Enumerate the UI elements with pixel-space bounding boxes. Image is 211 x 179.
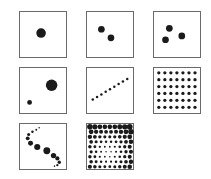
dot	[114, 130, 118, 134]
dot	[88, 155, 91, 158]
dot	[169, 99, 172, 102]
dot	[88, 145, 92, 149]
dots-canvas	[87, 68, 133, 113]
dot	[169, 78, 172, 81]
dot	[46, 79, 57, 90]
dot	[187, 85, 190, 88]
dot	[162, 36, 169, 43]
dot	[38, 127, 40, 129]
dot	[92, 98, 94, 100]
dots-canvas	[154, 12, 200, 57]
dot	[56, 164, 58, 166]
dot	[175, 106, 178, 109]
dot	[95, 160, 98, 163]
dot	[110, 141, 112, 143]
dot	[95, 150, 98, 153]
dot	[93, 155, 96, 158]
dot	[163, 85, 166, 88]
dot	[187, 92, 190, 95]
dot	[124, 150, 127, 153]
dot	[109, 130, 113, 134]
dot	[92, 124, 97, 129]
dot	[28, 141, 33, 146]
dot	[169, 92, 172, 95]
dot	[122, 80, 124, 82]
dot	[118, 165, 121, 168]
dot	[187, 99, 190, 102]
dot	[193, 92, 196, 95]
dot	[58, 161, 61, 164]
dot	[98, 26, 105, 33]
dot	[113, 135, 116, 138]
dot	[169, 85, 172, 88]
panel-one-dot: Single large dot	[19, 11, 67, 58]
dot	[112, 124, 117, 129]
dot	[193, 78, 196, 81]
dot	[114, 146, 116, 148]
dot	[103, 125, 108, 130]
dot	[110, 151, 112, 153]
dot	[90, 150, 93, 153]
dot	[115, 140, 118, 143]
dot	[157, 99, 160, 102]
dot	[93, 165, 97, 169]
dot	[187, 71, 190, 74]
dot	[109, 156, 111, 158]
dot	[118, 155, 121, 158]
dots-canvas	[20, 12, 66, 57]
dot	[169, 106, 172, 109]
panel-two-dots: Two dots	[86, 11, 134, 58]
dot	[181, 92, 184, 95]
dot	[175, 99, 178, 102]
dot	[128, 145, 132, 149]
dot	[95, 140, 98, 143]
dot	[100, 140, 103, 143]
dot	[123, 145, 126, 148]
dot	[31, 130, 33, 132]
dot	[27, 100, 32, 105]
dot	[100, 93, 102, 95]
dot	[128, 155, 132, 159]
dot	[113, 85, 115, 87]
dot	[114, 156, 116, 158]
dot	[105, 141, 107, 143]
dot	[129, 160, 133, 164]
dot	[88, 165, 92, 169]
dot	[109, 88, 111, 90]
dot	[34, 144, 40, 150]
dot	[178, 33, 185, 40]
dot	[105, 161, 107, 163]
dot	[119, 130, 123, 134]
dot	[93, 145, 96, 148]
dot	[89, 129, 94, 134]
dot	[163, 92, 166, 95]
dot	[175, 78, 178, 81]
dot	[99, 130, 103, 134]
dot	[98, 165, 101, 168]
dot	[87, 124, 93, 130]
dot	[120, 150, 123, 153]
dot	[113, 165, 116, 168]
dot	[117, 124, 122, 129]
dot	[27, 133, 30, 136]
dot	[127, 134, 132, 139]
dot	[163, 106, 166, 109]
dots-canvas	[20, 68, 66, 113]
dot	[163, 71, 166, 74]
dot	[157, 106, 160, 109]
dot	[99, 156, 101, 158]
dot	[166, 25, 173, 32]
dot	[55, 156, 59, 160]
dot	[123, 155, 126, 158]
dot	[175, 92, 178, 95]
panel-dense-field: Dense field of dots, large at edges, sma…	[86, 123, 134, 170]
dot	[181, 106, 184, 109]
dot	[163, 99, 166, 102]
dots-canvas	[20, 124, 66, 169]
dot	[97, 124, 102, 129]
dot	[36, 28, 46, 38]
dot	[99, 146, 101, 148]
dots-canvas	[154, 68, 200, 113]
dot	[193, 71, 196, 74]
dot	[193, 85, 196, 88]
